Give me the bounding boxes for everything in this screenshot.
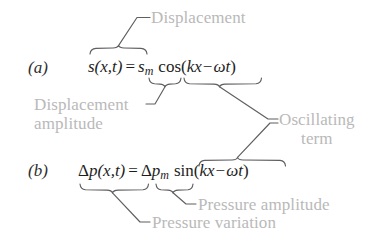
symbol-s-amplitude: s: [138, 57, 145, 76]
close-paren-a: ): [230, 57, 236, 76]
annotation-oscillating-term-line2: term: [279, 129, 355, 148]
underbrace-pressure-amplitude: [156, 184, 193, 193]
subscript-m-a: m: [145, 64, 154, 78]
equals-sign-b: =: [125, 161, 141, 180]
leader-pressure-amplitude: [173, 193, 196, 204]
equation-a: s(x,t)=smcos(kx−ωt): [88, 57, 236, 79]
leader-displacement-amplitude: [146, 87, 165, 104]
leader-pressure-variation: [113, 193, 151, 222]
minus-sign-a: −: [202, 57, 214, 76]
leader-displacement: [119, 18, 151, 46]
subscript-m-b: m: [160, 168, 169, 182]
function-sin: sin: [174, 161, 194, 180]
annotation-oscillating-term: Oscillating term: [279, 110, 355, 148]
symbol-s: s(x,t): [88, 57, 122, 76]
phase-omega-t-b: ωt: [226, 161, 243, 180]
equation-a-left-side: s(x,t): [88, 57, 122, 76]
function-cos: cos: [158, 57, 181, 76]
physics-equation-figure: (a) s(x,t)=smcos(kx−ωt) (b) Δp(x,t)=Δpms…: [0, 0, 378, 242]
annotation-displacement: Displacement: [151, 8, 246, 27]
equation-b-left-side: p(x,t): [89, 161, 125, 180]
annotation-displacement-amplitude-line2: amplitude: [34, 114, 129, 133]
equation-b: Δp(x,t)=Δpmsin(kx−ωt): [78, 161, 249, 183]
annotation-oscillating-term-line1: Oscillating: [279, 110, 355, 129]
phase-kx-a: kx: [187, 57, 202, 76]
annotation-pressure-variation: Pressure variation: [152, 213, 276, 232]
panel-label-a: (a): [28, 58, 48, 78]
overbrace-displacement: [90, 46, 147, 54]
phase-kx-b: kx: [200, 161, 215, 180]
underbrace-pressure-variation: [80, 184, 149, 193]
leader-oscillating-term-b: [238, 123, 279, 157]
minus-sign-b: −: [215, 161, 227, 180]
close-paren-b: ): [243, 161, 249, 180]
leader-oscillating-term-a: [220, 87, 279, 119]
phase-omega-t-a: ωt: [213, 57, 230, 76]
delta-symbol-amplitude-b: Δ: [141, 161, 152, 180]
annotation-displacement-amplitude: Displacement amplitude: [34, 95, 129, 133]
delta-symbol-b: Δ: [78, 161, 89, 180]
annotation-pressure-amplitude: Pressure amplitude: [198, 195, 330, 214]
equation-a-amplitude: sm: [138, 57, 153, 76]
equals-sign-a: =: [122, 57, 138, 76]
annotation-displacement-amplitude-line1: Displacement: [34, 95, 129, 114]
panel-label-b: (b): [28, 161, 48, 181]
